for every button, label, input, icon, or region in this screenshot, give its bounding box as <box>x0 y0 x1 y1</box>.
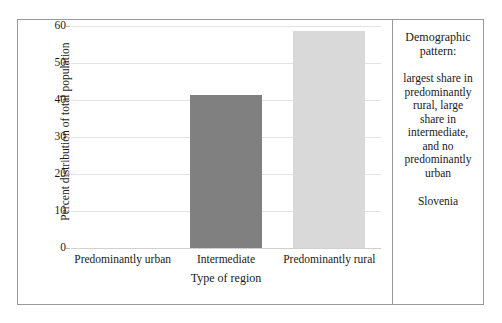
bar <box>190 95 262 248</box>
y-tick-mark <box>66 211 70 212</box>
y-tick-mark <box>66 137 70 138</box>
y-tick-label: 50 <box>55 57 67 69</box>
x-axis-category-labels: Predominantly urbanIntermediatePredomina… <box>71 253 381 269</box>
gridline <box>71 248 381 249</box>
y-tick-label: 20 <box>55 168 67 180</box>
y-tick-mark <box>66 174 70 175</box>
note-body: largest share in predominantly rural, la… <box>400 72 476 180</box>
y-tick-mark <box>66 100 70 101</box>
x-tick-label: Predominantly urban <box>74 253 171 266</box>
y-tick-label: 60 <box>55 20 67 32</box>
bar <box>293 31 365 248</box>
bar-series <box>71 26 381 248</box>
note-cell: Demographic pattern: largest share in pr… <box>393 20 483 304</box>
plot-area <box>71 26 381 248</box>
y-axis-ticks: 0102030405060 <box>18 26 66 248</box>
y-tick-label: 40 <box>55 94 67 106</box>
figure-root: Percent distribution of total population… <box>0 0 502 323</box>
y-tick-mark <box>66 26 70 27</box>
note-country: Slovenia <box>400 195 476 209</box>
note-heading: Demographic pattern: <box>400 30 476 58</box>
x-tick-label: Predominantly rural <box>283 253 375 266</box>
y-tick-mark <box>66 248 70 249</box>
y-tick-label: 30 <box>55 131 67 143</box>
x-tick-label: Intermediate <box>197 253 255 266</box>
figure-frame: Percent distribution of total population… <box>17 19 484 305</box>
y-tick-label: 10 <box>55 205 67 217</box>
chart-cell: Percent distribution of total population… <box>18 20 393 304</box>
x-axis-title: Type of region <box>71 271 381 285</box>
y-tick-mark <box>66 63 70 64</box>
